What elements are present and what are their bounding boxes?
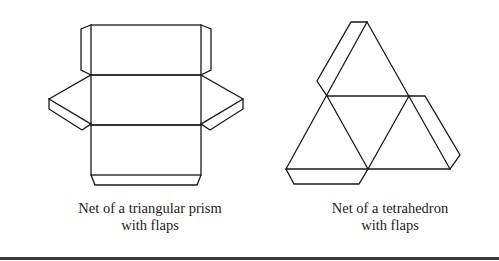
prism-flap-right bbox=[201, 99, 243, 130]
bottom-rule-divider bbox=[0, 257, 499, 260]
prism-caption-line1: Net of a triangular prism bbox=[66, 200, 234, 217]
prism-flap-left bbox=[49, 99, 91, 130]
prism-face-top bbox=[91, 25, 201, 75]
prism-face-bottom bbox=[91, 125, 201, 175]
tetra-flap-bottom bbox=[286, 169, 368, 184]
prism-flap-top-left bbox=[81, 25, 91, 75]
tetrahedron-caption-line2: with flaps bbox=[310, 217, 470, 234]
tetrahedron-net bbox=[286, 22, 460, 184]
tetra-inner-triangle bbox=[327, 96, 409, 169]
prism-triangle-left bbox=[49, 75, 91, 124]
tetra-flap-top-left bbox=[317, 22, 367, 96]
prism-face-middle bbox=[91, 75, 201, 125]
tetrahedron-caption-line1: Net of a tetrahedron bbox=[310, 200, 470, 217]
tetrahedron-caption: Net of a tetrahedron with flaps bbox=[310, 200, 470, 234]
tetra-flap-right bbox=[409, 96, 460, 169]
prism-caption: Net of a triangular prism with flaps bbox=[66, 200, 234, 234]
prism-flap-top-right bbox=[201, 25, 211, 75]
prism-flap-bottom bbox=[91, 175, 201, 185]
prism-caption-line2: with flaps bbox=[66, 217, 234, 234]
triangular-prism-net bbox=[49, 25, 243, 185]
prism-triangle-right bbox=[201, 75, 243, 124]
